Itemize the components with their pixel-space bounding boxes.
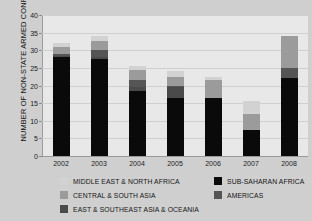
- x-axis-tick-label: 2003: [91, 160, 107, 167]
- x-axis-tick-label: 2008: [281, 160, 297, 167]
- y-tick-mark: [39, 50, 42, 51]
- bar-2005: [167, 71, 184, 156]
- bar-segment: [91, 41, 108, 50]
- y-tick-mark: [39, 103, 42, 104]
- y-axis-tick-label: 40: [30, 12, 38, 19]
- grid-line: [42, 68, 308, 69]
- grid-line: [42, 33, 308, 34]
- y-tick-mark: [39, 156, 42, 157]
- bar-segment: [243, 130, 260, 156]
- y-axis-tick-label: 25: [30, 64, 38, 71]
- legend-label: CENTRAL & SOUTH ASIA: [73, 192, 156, 199]
- bar-segment: [167, 77, 184, 86]
- plot-area: 0510152025303540200220032004200520062007…: [42, 15, 308, 157]
- bar-segment: [281, 68, 298, 79]
- x-axis-line: [42, 156, 308, 157]
- y-axis-tick-label: 20: [30, 82, 38, 89]
- bar-segment: [167, 98, 184, 156]
- chart-legend: MIDDLE EAST & NORTH AFRICACENTRAL & SOUT…: [42, 177, 308, 219]
- bar-2008: [281, 36, 298, 156]
- grid-line: [42, 50, 308, 51]
- legend-item[interactable]: MIDDLE EAST & NORTH AFRICA: [60, 177, 180, 185]
- bar-2002: [53, 43, 70, 156]
- y-tick-mark: [39, 121, 42, 122]
- bar-segment: [129, 70, 146, 81]
- legend-label: SUB-SAHARAN AFRICA: [227, 178, 304, 185]
- legend-swatch-icon: [60, 205, 68, 213]
- y-axis-tick-label: 10: [30, 117, 38, 124]
- bar-segment: [281, 36, 298, 68]
- non-state-armed-conflicts-chart: NUMBER OF NON-STATE ARMED CONFLICTS 0510…: [0, 0, 312, 221]
- y-tick-mark: [39, 15, 42, 16]
- grid-line: [42, 15, 308, 16]
- bar-segment: [243, 101, 260, 113]
- x-axis-tick-label: 2004: [129, 160, 145, 167]
- legend-swatch-icon: [60, 191, 68, 199]
- bar-segment: [91, 50, 108, 57]
- bar-segment: [129, 91, 146, 156]
- bar-segment: [91, 59, 108, 156]
- bar-segment: [205, 98, 222, 156]
- y-tick-mark: [39, 33, 42, 34]
- y-axis-tick-label: 30: [30, 47, 38, 54]
- legend-label: AMERICAS: [227, 192, 263, 199]
- legend-swatch-icon: [60, 177, 68, 185]
- bar-segment: [243, 114, 260, 130]
- bar-segment: [129, 80, 146, 87]
- bar-segment: [53, 47, 70, 54]
- y-axis-tick-label: 5: [34, 135, 38, 142]
- legend-item[interactable]: SUB-SAHARAN AFRICA: [214, 177, 304, 185]
- bar-segment: [205, 80, 222, 98]
- bar-segment: [281, 78, 298, 156]
- bar-2006: [205, 77, 222, 156]
- y-axis-title: NUMBER OF NON-STATE ARMED CONFLICTS: [19, 0, 28, 142]
- y-axis-tick-label: 15: [30, 100, 38, 107]
- legend-label: MIDDLE EAST & NORTH AFRICA: [73, 178, 180, 185]
- x-axis-tick-label: 2006: [205, 160, 221, 167]
- legend-item[interactable]: AMERICAS: [214, 191, 263, 199]
- bar-2004: [129, 66, 146, 156]
- y-tick-mark: [39, 68, 42, 69]
- bar-2003: [91, 36, 108, 156]
- y-tick-mark: [39, 138, 42, 139]
- legend-item[interactable]: EAST & SOUTHEAST ASIA & OCEANIA: [60, 205, 199, 213]
- y-axis-tick-label: 35: [30, 29, 38, 36]
- bar-segment: [53, 57, 70, 156]
- x-axis-tick-label: 2005: [167, 160, 183, 167]
- x-axis-tick-label: 2007: [243, 160, 259, 167]
- y-axis-tick-label: 0: [34, 153, 38, 160]
- legend-item[interactable]: CENTRAL & SOUTH ASIA: [60, 191, 156, 199]
- legend-swatch-icon: [214, 191, 222, 199]
- bar-segment: [167, 87, 184, 98]
- x-axis-tick-label: 2002: [53, 160, 69, 167]
- legend-swatch-icon: [214, 177, 222, 185]
- legend-label: EAST & SOUTHEAST ASIA & OCEANIA: [73, 206, 199, 213]
- y-tick-mark: [39, 86, 42, 87]
- bar-2007: [243, 101, 260, 156]
